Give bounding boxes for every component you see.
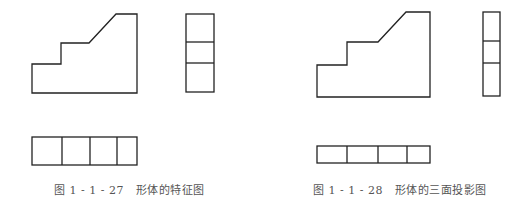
side-view-outline [186,14,214,92]
top-view [32,137,137,165]
projection-drawings [0,0,530,199]
side-view-outline [483,12,500,96]
front-view-outline [317,12,430,97]
figure-caption-1-1-27: 图 1 - 1 - 27 形体的特征图 [54,181,205,197]
side-view [483,12,500,96]
top-view-outline [32,137,137,165]
figure-feature-view [32,14,214,165]
top-view [317,146,430,163]
front-view-outline [32,14,137,93]
figure-three-view-projection [317,12,500,163]
figure-caption-1-1-28: 图 1 - 1 - 28 形体的三面投影图 [313,181,487,197]
side-view [186,14,214,92]
top-view-outline [317,146,430,163]
